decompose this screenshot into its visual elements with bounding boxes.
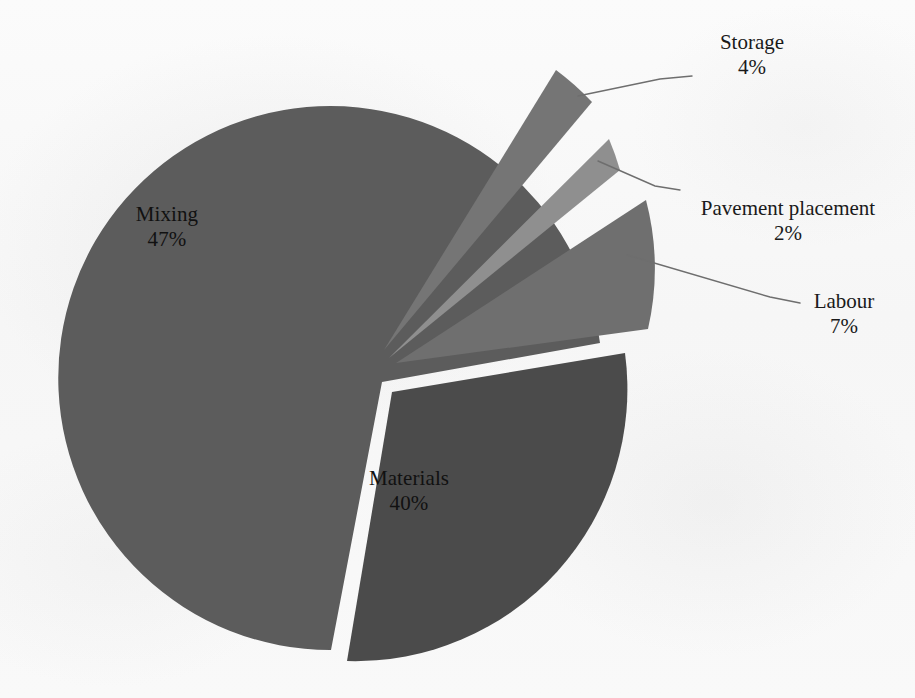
- pie-label-mixing-value: 47%: [112, 227, 222, 252]
- pie-label-materials: Materials 40%: [344, 466, 474, 516]
- pie-label-labour: Labour 7%: [792, 289, 896, 339]
- pie-label-pavement-placement-value: 2%: [672, 221, 904, 246]
- pie-label-labour-name: Labour: [792, 289, 896, 314]
- pie-chart-page: Mixing 47% Materials 40% Storage 4% Pave…: [0, 0, 915, 698]
- pie-label-materials-value: 40%: [344, 491, 474, 516]
- pie-label-materials-name: Materials: [344, 466, 474, 491]
- pie-label-pavement-placement: Pavement placement 2%: [672, 196, 904, 246]
- pie-label-labour-value: 7%: [792, 314, 896, 339]
- pie-label-storage: Storage 4%: [694, 30, 810, 80]
- pie-label-mixing: Mixing 47%: [112, 202, 222, 252]
- pie-label-mixing-name: Mixing: [112, 202, 222, 227]
- pie-label-storage-name: Storage: [694, 30, 810, 55]
- leader-line-storage: [578, 76, 692, 96]
- pie-label-pavement-placement-name: Pavement placement: [672, 196, 904, 221]
- pie-chart-graphic: [0, 0, 915, 698]
- pie-label-storage-value: 4%: [694, 55, 810, 80]
